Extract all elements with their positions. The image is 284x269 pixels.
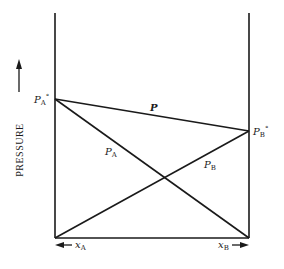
total-pressure-label: P	[149, 102, 158, 113]
partial-pressure-b-line	[55, 131, 249, 238]
xb-arrow-head	[240, 242, 249, 248]
pb-pure-label: PB°	[252, 125, 268, 139]
y-axis-title: PRESSURE	[14, 123, 25, 176]
y-axis-title-text: PRESSURE	[14, 123, 25, 176]
raoult-diagram: PRESSURE PA° PB° P PA PB xA xB	[0, 0, 284, 269]
partial-b-label: PB	[203, 159, 216, 172]
pressure-arrow-head	[16, 59, 22, 69]
xb-label: xB	[218, 239, 229, 252]
pa-pure-label: PA°	[33, 93, 49, 107]
xa-arrow-head	[55, 242, 64, 248]
xa-label: xA	[75, 239, 87, 252]
partial-a-label: PA	[104, 146, 118, 159]
partial-pressure-a-line	[55, 99, 249, 238]
